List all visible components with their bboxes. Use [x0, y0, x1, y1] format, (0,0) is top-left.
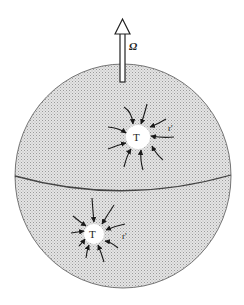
rotating-sphere-diagram: Ω T r' T r' — [0, 0, 244, 305]
upper-vortex-center-label: T — [133, 131, 140, 143]
omega-label: Ω — [129, 40, 138, 52]
upper-vortex-radius-label: r' — [168, 123, 173, 133]
lower-vortex-radius-label: r' — [122, 231, 127, 241]
lower-vortex-center-label: T — [89, 228, 96, 240]
sphere — [15, 64, 231, 288]
